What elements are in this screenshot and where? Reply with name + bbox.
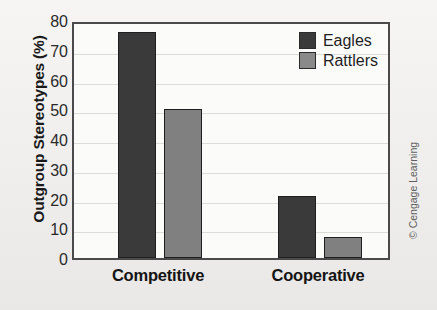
y-tick-label: 50 (34, 103, 68, 119)
y-axis-tick-labels: 80706050403020100 (34, 22, 68, 260)
y-tick-label: 40 (34, 133, 68, 149)
legend-swatch-icon (299, 52, 316, 69)
y-tick-label: 20 (34, 193, 68, 209)
y-tick-label: 60 (34, 74, 68, 90)
legend-label: Eagles (323, 33, 372, 49)
copyright-credit: © Cengage Learning (407, 109, 419, 239)
y-tick-label: 0 (34, 252, 68, 268)
legend-label: Rattlers (323, 53, 378, 69)
legend-swatch-icon (299, 32, 316, 49)
y-tick-label: 70 (34, 44, 68, 60)
x-tick-label-competitive: Competitive (112, 266, 204, 285)
x-tick-label-cooperative: Cooperative (271, 266, 364, 285)
y-tick-label: 80 (34, 14, 68, 30)
y-tick-label: 30 (34, 163, 68, 179)
bar-rattlers-competitive (164, 109, 202, 258)
plot-area: EaglesRattlers (72, 22, 390, 260)
bar-eagles-cooperative (278, 196, 316, 258)
chart-legend: EaglesRattlers (299, 32, 378, 69)
legend-item-rattlers: Rattlers (299, 52, 378, 69)
y-tick-label: 10 (34, 222, 68, 238)
bar-rattlers-cooperative (324, 237, 362, 258)
legend-item-eagles: Eagles (299, 32, 378, 49)
bar-chart-figure: Outgroup Stereotypes (%) 807060504030201… (0, 0, 437, 310)
bar-eagles-competitive (118, 32, 156, 258)
x-axis-category-labels: CompetitiveCooperative (72, 266, 390, 294)
